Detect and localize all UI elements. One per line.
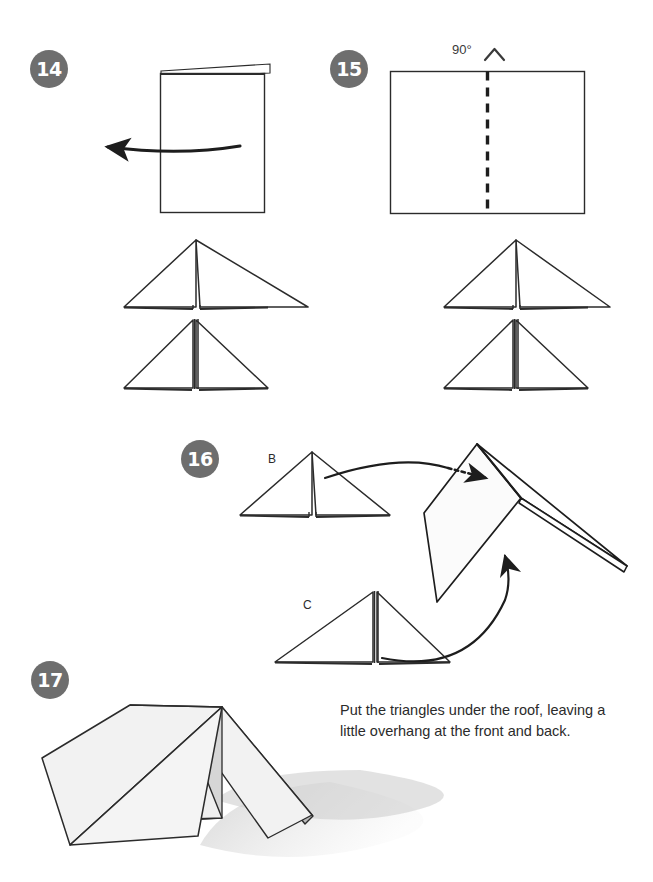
step-badge-14: 14 [30, 50, 68, 88]
triangle-left-lower-left [124, 320, 193, 388]
triangle-right-upper-half [444, 240, 516, 307]
triangle-left-upper-half [124, 240, 196, 307]
step14-folded-paper-panel [161, 74, 265, 213]
step-15-figure [391, 49, 585, 214]
triangle-c-left-half [275, 592, 373, 662]
step-badge-15: 15 [330, 50, 368, 88]
step16-arrow-b-to-roof [325, 462, 448, 478]
triangle-right-upper [516, 240, 610, 307]
roof-right-slope-thickness [519, 498, 627, 572]
triangle-b-label: B [268, 452, 276, 466]
step-16-caption: Put the triangles under the roof, leavin… [340, 700, 630, 742]
triangle-right-lower-left [444, 320, 513, 388]
step-badge-16: 16 [181, 440, 219, 478]
triangle-b-right-half [312, 452, 390, 515]
triangle-left-upper [196, 240, 308, 307]
triangle-pair-left [124, 240, 308, 390]
triangle-left-lower-right [196, 320, 268, 388]
step-14-figure [108, 64, 270, 213]
mountain-fold-chevron-icon [485, 49, 504, 60]
step-badge-17: 17 [31, 661, 69, 699]
triangle-c-label: C [303, 598, 312, 612]
step-16-figure [240, 444, 627, 664]
instruction-diagram-canvas [0, 0, 653, 882]
triangle-c-right-half [377, 592, 450, 662]
roof-form-3d [424, 444, 627, 602]
triangle-pair-right [444, 240, 610, 390]
triangle-right-lower-right [516, 320, 588, 388]
angle-90-label: 90° [452, 42, 472, 57]
